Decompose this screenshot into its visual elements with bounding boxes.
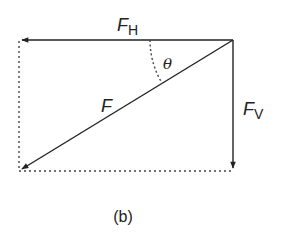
horizontal-force-label: FH	[117, 15, 138, 38]
angle-arc	[150, 40, 162, 83]
force-diagram: FH θ F FV (b)	[0, 0, 284, 238]
angle-label: θ	[163, 55, 172, 73]
resultant-force-vector	[22, 40, 233, 169]
figure-caption: (b)	[113, 208, 133, 225]
resultant-force-label: F	[101, 96, 113, 116]
vertical-force-label: FV	[243, 99, 264, 122]
